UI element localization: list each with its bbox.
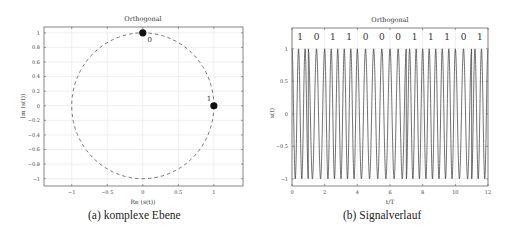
x-tick-label: 0.5: [174, 189, 182, 195]
y-tick-label: 0.4: [32, 73, 40, 79]
constellation-point: [210, 102, 217, 109]
signal-waveform-chart: 02468101210.50−0.5−1 101100011101 Orthog…: [268, 16, 491, 205]
y-tick-label: 0: [37, 103, 40, 109]
chart-title: Orthogonal: [124, 15, 161, 23]
x-tick-label: 0: [290, 189, 293, 195]
y-tick-label: 0.2: [32, 88, 40, 94]
caption-a: (a) komplexe Ebene: [88, 209, 181, 221]
figure: −1−0.500.5110.80.60.40.20−0.2−0.4−0.6−0.…: [0, 0, 511, 237]
bit-label: 1: [428, 32, 434, 42]
x-axis-label: t/T: [386, 198, 394, 205]
y-tick-label: 1: [37, 30, 40, 36]
y-axis-label: s(t): [268, 108, 275, 118]
x-tick-label: 6: [388, 189, 391, 195]
y-tick-label: 0.6: [32, 59, 40, 65]
y-tick-label: −0.8: [28, 161, 40, 167]
bit-label: 0: [379, 32, 385, 42]
y-tick-label: −0.4: [28, 132, 40, 138]
x-tick-label: 8: [421, 189, 424, 195]
x-axis-label: Re (s(t)): [131, 198, 156, 205]
y-tick-label: 0.5: [280, 78, 288, 84]
y-tick-label: −0.2: [28, 117, 40, 123]
point-label: 0: [148, 36, 152, 44]
bit-label: 1: [444, 32, 450, 42]
bit-label: 1: [346, 32, 352, 42]
y-tick-label: −0.5: [276, 143, 288, 149]
bit-label: 1: [477, 32, 483, 42]
x-tick-label: 4: [356, 189, 359, 195]
y-tick-label: −1: [33, 176, 40, 182]
x-tick-label: 12: [485, 189, 491, 195]
x-tick-label: −0.5: [101, 189, 113, 195]
caption-b: (b) Signalverlauf: [343, 209, 421, 221]
y-tick-label: −0.6: [28, 146, 40, 152]
bit-label: 1: [330, 32, 336, 42]
complex-plane-chart: −1−0.500.5110.80.60.40.20−0.2−0.4−0.6−0.…: [19, 15, 243, 205]
bit-label: 0: [395, 32, 401, 42]
chart-title: Orthogonal: [371, 16, 408, 24]
y-tick-label: 1: [285, 46, 288, 52]
x-tick-label: 2: [323, 189, 326, 195]
bit-label: 0: [314, 32, 320, 42]
bit-label: 1: [297, 32, 303, 42]
y-tick-label: 0: [285, 111, 288, 117]
bit-label: 0: [363, 32, 369, 42]
x-tick-label: 0: [141, 189, 144, 195]
bit-label: 1: [412, 32, 418, 42]
tick-labels: −1−0.500.5110.80.60.40.20−0.2−0.4−0.6−0.…: [28, 30, 216, 195]
bit-label: 0: [461, 32, 467, 42]
y-tick-label: −1: [281, 176, 288, 182]
x-tick-label: −1: [68, 189, 75, 195]
x-tick-label: 10: [452, 189, 458, 195]
y-tick-label: 0.8: [32, 44, 40, 50]
y-axis-label: Im (s(t)): [19, 94, 26, 119]
point-label: 1: [207, 95, 211, 103]
constellation-point: [139, 29, 146, 36]
x-tick-label: 1: [212, 189, 215, 195]
